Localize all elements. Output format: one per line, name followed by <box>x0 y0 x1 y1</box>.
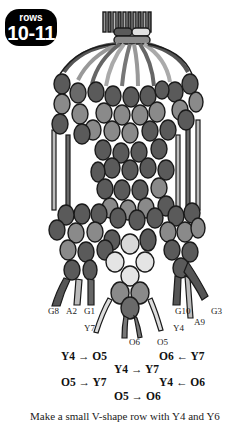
knot-step-6: O5 → O6 <box>114 390 161 402</box>
strand-label-y7: Y7 <box>84 323 95 333</box>
strand-label-g8: G8 <box>48 306 59 316</box>
strand-label-g3: G3 <box>211 306 222 316</box>
strand-label-a2: A2 <box>66 306 77 316</box>
strand-label-g1: G1 <box>84 306 95 316</box>
strand-label-o6: O6 <box>129 337 140 347</box>
knot-step-5: Y4 ← O6 <box>159 376 205 388</box>
top-knot <box>114 28 150 44</box>
knot-step-1: Y4 → O5 <box>61 350 107 362</box>
strand-label-g10: G10 <box>175 306 191 316</box>
strand-label-o5: O5 <box>157 337 168 347</box>
strand-label-y4: Y4 <box>173 323 184 333</box>
knot-step-4: O5 → Y7 <box>61 376 107 388</box>
knot-step-2: O6 ← Y7 <box>159 350 205 362</box>
knotting-diagram <box>0 0 235 340</box>
instruction-caption: Make a small V-shape row with Y4 and Y6 <box>30 410 220 422</box>
strand-label-a9: A9 <box>194 317 205 327</box>
beads <box>49 74 205 319</box>
knot-step-3: Y4 → Y7 <box>114 363 159 375</box>
